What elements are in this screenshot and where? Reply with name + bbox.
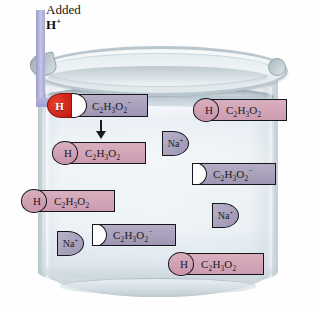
- acetic-acid-formula: C2H3O2: [51, 195, 94, 207]
- sub-2b: 2: [124, 107, 128, 115]
- species-acetic-acid-bottom-right: H C2H3O2: [178, 253, 264, 275]
- na-text: Na: [218, 210, 230, 221]
- acetic-acid-formula: C2H3O2: [82, 147, 125, 159]
- bound-h-label: H: [64, 147, 72, 159]
- h-element: H: [46, 17, 56, 32]
- acetate-charge: −: [248, 167, 252, 175]
- sub: 2: [93, 154, 97, 162]
- proton-h-icon: H: [47, 93, 72, 117]
- sub: 2: [121, 236, 125, 244]
- na-charge: +: [229, 209, 233, 216]
- sub: 2: [245, 175, 249, 183]
- acetate-charge: −: [127, 99, 131, 107]
- bound-h-cap: H: [63, 143, 82, 163]
- sub: 2: [62, 202, 66, 210]
- sodium-label: Na+: [218, 210, 233, 221]
- added-h-arrow-shaft: [36, 10, 45, 106]
- species-acetic-acid-left-mid: H C2H3O2: [31, 190, 115, 212]
- added-h-formula: H+: [46, 18, 81, 33]
- bound-h-label: H: [180, 258, 188, 270]
- sub: 3: [246, 111, 250, 119]
- bound-h-label: H: [33, 195, 41, 207]
- species-acetate-right-mid: C2H3O2−: [192, 163, 276, 185]
- sub: 2: [145, 236, 149, 244]
- acetic-acid-formula: C2H3O2: [198, 258, 241, 270]
- acetate-binding-notch: H: [63, 95, 89, 116]
- na-text: Na: [168, 138, 180, 149]
- acetate-formula: C2H3O2−: [89, 100, 137, 112]
- sub: 3: [233, 175, 237, 183]
- sub: 2: [117, 154, 121, 162]
- sub: 2: [209, 265, 213, 273]
- figure-canvas: Added H+ H C2H3O2− H C2H3O2 H C2H3O2 C2H…: [0, 0, 313, 309]
- acetic-acid-formula: C2H3O2: [223, 104, 266, 116]
- sodium-label: Na+: [168, 138, 183, 149]
- species-acetic-acid-right-top: H C2H3O2: [203, 99, 287, 121]
- beaker-rim-shadow: [48, 66, 268, 88]
- sub: 2: [258, 111, 262, 119]
- species-acetate-bottom-mid: C2H3O2−: [92, 224, 176, 246]
- glass-left-highlight: [46, 86, 51, 282]
- sub: 3: [105, 154, 109, 162]
- acetate-formula: C2H3O2−: [110, 229, 158, 241]
- sodium-label: Na+: [63, 238, 78, 249]
- reaction-down-arrow-head: [96, 131, 106, 139]
- species-product-acetic-acid: H C2H3O2: [62, 142, 146, 164]
- na-text: Na: [63, 238, 75, 249]
- sub: 2: [86, 202, 90, 210]
- na-charge: +: [179, 137, 183, 144]
- sub: 2: [234, 111, 238, 119]
- acetate-formula: C2H3O2−: [210, 168, 258, 180]
- sub: 3: [221, 265, 225, 273]
- sub: 3: [133, 236, 137, 244]
- sub: 2: [221, 175, 225, 183]
- sub-3a: 3: [112, 107, 116, 115]
- bound-h-cap: H: [179, 254, 198, 274]
- bound-h-cap: H: [204, 100, 223, 120]
- sub: 2: [233, 265, 237, 273]
- added-h-label: Added H+: [46, 3, 81, 32]
- acetate-charge: −: [148, 228, 152, 236]
- species-reacting-pair: H C2H3O2−: [62, 94, 148, 117]
- acetate-binding-notch: [93, 225, 110, 245]
- beaker-rim-tab-right: [268, 58, 286, 76]
- added-label-text: Added: [46, 3, 81, 18]
- h-charge: +: [56, 15, 61, 25]
- beaker-base-ellipse: [60, 278, 256, 295]
- bound-h-cap: H: [32, 191, 51, 211]
- bound-h-label: H: [205, 104, 213, 116]
- acetate-binding-notch: [193, 164, 210, 184]
- sub: 3: [74, 202, 78, 210]
- na-charge: +: [74, 237, 78, 244]
- sub-2a: 2: [100, 107, 104, 115]
- proton-label: H: [55, 100, 64, 112]
